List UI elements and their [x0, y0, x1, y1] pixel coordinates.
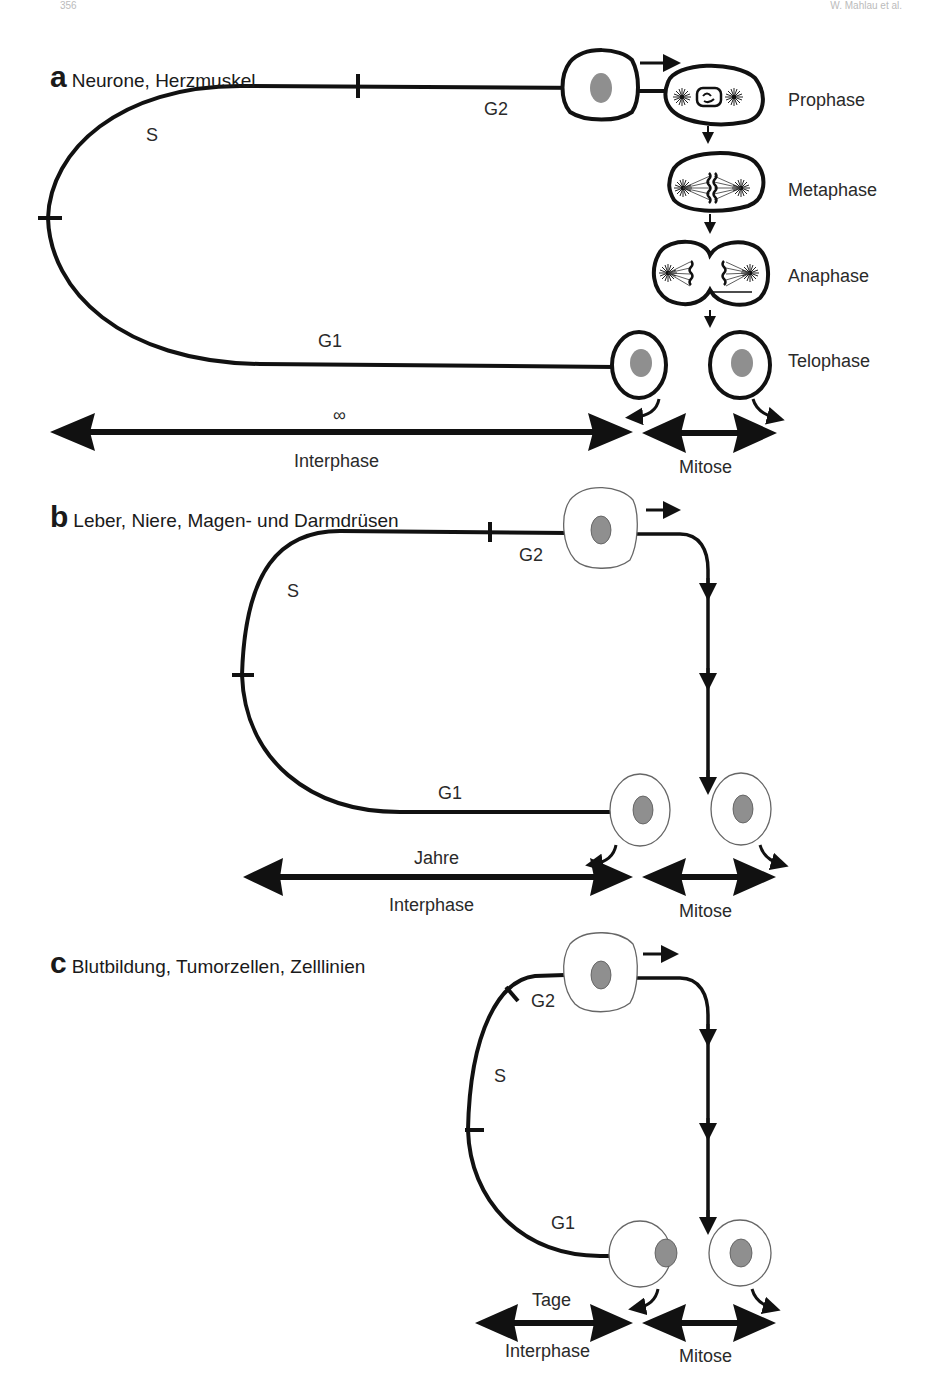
panel-b-mitose-label: Mitose	[679, 902, 732, 920]
panel-a-s-label: S	[146, 126, 158, 144]
panel-c-interphase-label: Interphase	[505, 1342, 590, 1360]
panel-a-title: aNeurone, Herzmuskel	[50, 62, 255, 92]
metaphase-label: Metaphase	[788, 181, 877, 199]
panel-b-interphase-label: Interphase	[389, 896, 474, 914]
panel-c-title: cBlutbildung, Tumorzellen, Zelllinien	[50, 948, 365, 978]
panel-c-cycle	[465, 933, 776, 1342]
panel-b-cycle	[232, 488, 780, 896]
telophase-label: Telophase	[788, 352, 870, 370]
panel-c-mitose-label: Mitose	[679, 1347, 732, 1365]
panel-b-g2-label: G2	[519, 546, 543, 564]
panel-c-g2-label: G2	[531, 992, 555, 1010]
panel-b-s-label: S	[287, 582, 299, 600]
panel-a-cycle	[38, 50, 777, 453]
panel-c-s-label: S	[494, 1067, 506, 1085]
prophase-label: Prophase	[788, 91, 865, 109]
cell-cycle-diagram	[0, 0, 932, 1389]
panel-c-g1-label: G1	[551, 1214, 575, 1232]
panel-a-mitose-label: Mitose	[679, 458, 732, 476]
panel-b-duration: Jahre	[414, 849, 459, 867]
panel-a-g2-label: G2	[484, 100, 508, 118]
panel-a-interphase-label: Interphase	[294, 452, 379, 470]
panel-a-g1-label: G1	[318, 332, 342, 350]
panel-b-g1-label: G1	[438, 784, 462, 802]
panel-a-duration: ∞	[333, 406, 346, 424]
panel-c-duration: Tage	[532, 1291, 571, 1309]
panel-b-title: bLeber, Niere, Magen- und Darmdrüsen	[50, 502, 399, 532]
anaphase-label: Anaphase	[788, 267, 869, 285]
